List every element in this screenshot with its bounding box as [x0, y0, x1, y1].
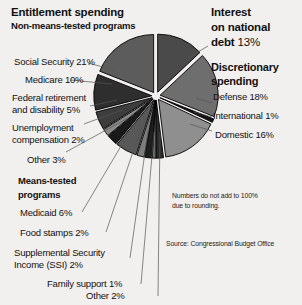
label-unemployment-line2: compensation 2% [12, 135, 85, 145]
header-interest-line1: Interest [211, 6, 251, 18]
header-means-tested-line2: programs [18, 190, 60, 200]
header-interest-line3: debt 13% [211, 36, 260, 48]
label-federal-retirement-line2: and disability 5% [12, 105, 80, 115]
leader-defense [196, 98, 212, 103]
leader-other-means [158, 132, 160, 296]
label-federal-retirement-line1: Federal retirement [12, 93, 86, 103]
header-entitlement-spending: Entitlement spending [11, 6, 124, 18]
source-credit: Source: Congressional Budget Office [166, 240, 274, 247]
leader-domestic [190, 124, 212, 131]
header-interest-line2: on national [211, 21, 270, 33]
header-means-tested-line1: Means-tested [18, 176, 76, 186]
leader-interest [188, 46, 208, 58]
leader-ssi [130, 131, 148, 258]
label-medicare: Medicare 10% [25, 75, 83, 85]
label-family-support: Family support 1% [47, 279, 122, 289]
leader-family-support [141, 132, 154, 284]
header-interest-debt-word: debt [211, 36, 234, 48]
label-unemployment-line1: Unemployment [12, 123, 74, 133]
note-rounding-line2: due to rounding. [172, 201, 220, 210]
leader-international [194, 112, 212, 117]
label-other-means-tested: Other 2% [86, 291, 125, 301]
header-discretionary-line1: Discretionary [211, 62, 279, 74]
label-ssi-line1: Supplemental Security [14, 248, 105, 258]
leader-medicaid [82, 124, 134, 212]
header-non-means-tested: Non-means-tested programs [11, 21, 135, 31]
label-food-stamps: Food stamps 2% [20, 228, 88, 238]
leader-federal-retirement [90, 100, 117, 106]
header-discretionary-line2: spending [211, 76, 258, 88]
label-ssi-line2: Income (SSI) 2% [14, 260, 83, 270]
header-interest-percent-value: 13% [237, 36, 259, 48]
leader-unemployment [84, 110, 122, 124]
label-medicaid: Medicaid 6% [20, 208, 72, 218]
label-social-security: Social Security 21% [14, 57, 95, 67]
label-defense: Defense 18% [213, 92, 268, 102]
chart-canvas: Entitlement spending Non-means-tested pr… [0, 0, 302, 305]
label-international: International 1% [213, 111, 278, 121]
note-rounding-line1: Numbers do not add to 100% [172, 191, 258, 200]
label-domestic: Domestic 16% [215, 130, 274, 140]
label-other-non-means-tested: Other 3% [27, 155, 66, 165]
